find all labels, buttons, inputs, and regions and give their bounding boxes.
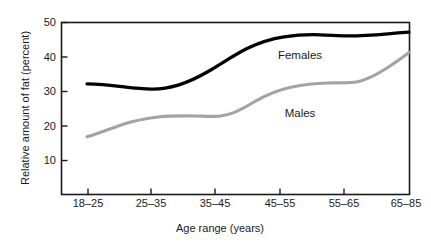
y-tick-label-50: 50	[44, 16, 56, 28]
y-axis-ticks	[62, 23, 68, 161]
y-tick-label-40: 40	[44, 51, 56, 63]
x-axis-tick-labels: 18–25 25–35 35–45 45–55 55–65 65–85	[73, 197, 422, 209]
y-tick-label-30: 30	[44, 85, 56, 97]
y-axis-title: Relative amount of fat (percent)	[19, 31, 31, 185]
x-tick-label-55-65: 55–65	[329, 197, 360, 209]
x-axis-title: Age range (years)	[176, 222, 264, 234]
y-tick-label-20: 20	[44, 120, 56, 132]
x-tick-label-25-35: 25–35	[136, 197, 167, 209]
plot-border	[62, 23, 410, 195]
x-tick-label-45-55: 45–55	[265, 197, 296, 209]
x-axis-ticks	[88, 189, 344, 195]
fat-vs-age-line-chart: 50 40 30 20 10 18–25 25–35 35–45 45–55 5…	[0, 0, 431, 251]
x-tick-label-65-85: 65–85	[391, 197, 422, 209]
chart-figure: 50 40 30 20 10 18–25 25–35 35–45 45–55 5…	[0, 0, 431, 251]
y-tick-label-10: 10	[44, 154, 56, 166]
y-axis-tick-labels: 50 40 30 20 10	[44, 16, 56, 166]
plot-frame	[62, 23, 410, 195]
x-tick-label-18-25: 18–25	[73, 197, 104, 209]
x-tick-label-35-45: 35–45	[200, 197, 231, 209]
series-annotation-females: Females	[278, 49, 322, 61]
series-annotation-males: Males	[285, 107, 316, 119]
series-line-males	[87, 53, 409, 137]
